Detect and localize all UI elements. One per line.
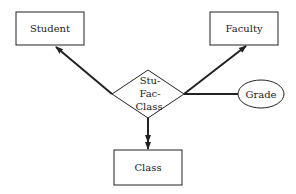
relationship-label-line-3: Class	[135, 101, 162, 112]
er-diagram: Student Faculty Class Stu- Fac- Class Gr…	[0, 0, 296, 194]
entity-faculty-label: Faculty	[225, 23, 262, 34]
connector-student	[56, 47, 112, 94]
relationship-label-line-2: Fac-	[139, 88, 160, 99]
relationship-label-line-1: Stu-	[140, 75, 161, 86]
entity-faculty: Faculty	[210, 12, 278, 45]
attribute-grade: Grade	[238, 80, 284, 108]
relationship-stu-fac-class: Stu- Fac- Class	[112, 70, 184, 118]
attribute-grade-label: Grade	[245, 89, 276, 100]
entity-student: Student	[16, 12, 84, 45]
entity-class: Class	[114, 150, 182, 185]
connector-faculty	[184, 46, 246, 94]
entity-student-label: Student	[30, 23, 70, 34]
entity-class-label: Class	[134, 162, 161, 173]
